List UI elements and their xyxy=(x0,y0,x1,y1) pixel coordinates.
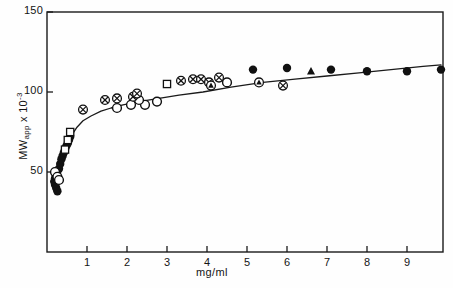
figure-container: MWapp x 10-3 mg/ml 12345678950100150 xyxy=(0,0,453,288)
x-tick-label-6: 6 xyxy=(280,256,294,268)
x-tick-label-2: 2 xyxy=(120,256,134,268)
x-tick-label-8: 8 xyxy=(360,256,374,268)
series-filled-circle xyxy=(50,64,445,196)
x-tick-label-5: 5 xyxy=(240,256,254,268)
scatter-plot xyxy=(0,0,453,288)
plot-frame xyxy=(47,12,443,252)
y-tick-label-100: 100 xyxy=(13,84,43,96)
x-tick-label-1: 1 xyxy=(80,256,94,268)
x-tick-label-3: 3 xyxy=(160,256,174,268)
fit-curve xyxy=(58,65,441,188)
y-axis-label-main: MW xyxy=(17,140,29,160)
series-filled-triangle xyxy=(307,67,315,74)
y-axis-label-times: x 10 xyxy=(17,100,29,125)
x-tick-label-9: 9 xyxy=(400,256,414,268)
series-open-square xyxy=(61,80,170,153)
x-tick-label-7: 7 xyxy=(320,256,334,268)
y-axis-label-sub: app xyxy=(22,125,31,139)
y-tick-label-50: 50 xyxy=(13,164,43,176)
x-tick-label-4: 4 xyxy=(200,256,214,268)
y-tick-label-150: 150 xyxy=(13,4,43,16)
